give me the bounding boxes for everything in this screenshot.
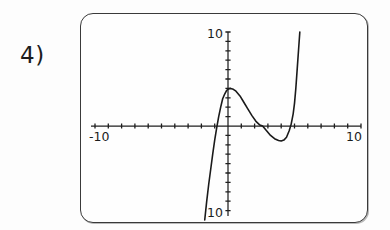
x-axis-max-label: 10: [346, 129, 362, 144]
x-axis-min-label: -10: [89, 129, 109, 144]
problem-number-label: 4): [20, 38, 72, 72]
graph-screen: 10 10 -10 10: [80, 13, 368, 223]
y-axis-min-label: 10: [207, 205, 223, 220]
worksheet-page: 4) 10 10 -10 10: [0, 0, 390, 230]
y-axis-max-label: 10: [207, 26, 223, 41]
graph-svg: 10 10 -10 10: [81, 14, 368, 223]
